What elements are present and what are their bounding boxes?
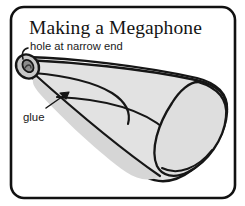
glue-callout-label: glue: [23, 111, 45, 123]
megaphone-figure: Making a Megaphone hole at narrow end gl…: [0, 0, 245, 206]
hole-callout-label: hole at narrow end: [30, 40, 123, 52]
illustration-panel: Making a Megaphone hole at narrow end gl…: [0, 0, 245, 206]
page-title: Making a Megaphone: [29, 17, 202, 38]
